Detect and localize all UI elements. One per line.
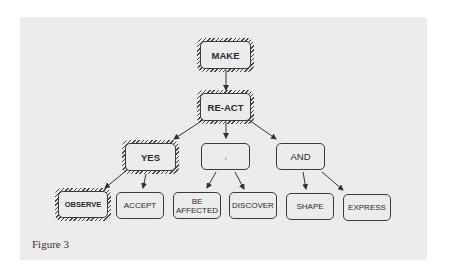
node-label: RE-ACT bbox=[208, 103, 244, 112]
node-label: EXPRESS bbox=[348, 203, 386, 212]
node-and: AND bbox=[276, 143, 325, 170]
node-label: ACCEPT bbox=[124, 201, 156, 210]
edge-comma-discover bbox=[235, 172, 244, 189]
node-label-line1: BE bbox=[192, 197, 203, 206]
node-accept: ACCEPT bbox=[116, 192, 164, 219]
node-label: OBSERVE bbox=[65, 200, 102, 209]
edge-yes-accept bbox=[143, 174, 146, 188]
node-label: DISCOVER bbox=[232, 201, 274, 210]
node-discover: DISCOVER bbox=[229, 192, 277, 219]
node-label: MAKE bbox=[212, 51, 240, 60]
edge-comma-beaffected bbox=[207, 172, 216, 188]
node-yes: YES bbox=[125, 143, 176, 171]
edge-yes-observe bbox=[105, 170, 127, 188]
edge-react-and bbox=[249, 120, 276, 139]
node-comma: , bbox=[201, 143, 250, 170]
node-shape: SHAPE bbox=[286, 193, 334, 220]
node-observe: OBSERVE bbox=[58, 191, 108, 218]
node-be-affected: BEAFFECTED bbox=[173, 192, 221, 219]
edge-and-shape bbox=[303, 172, 306, 189]
node-make: MAKE bbox=[200, 41, 251, 69]
node-label: , bbox=[224, 152, 226, 161]
node-label: SHAPE bbox=[296, 202, 323, 211]
node-react: RE-ACT bbox=[200, 93, 251, 121]
edge-and-express bbox=[322, 172, 343, 190]
node-label: YES bbox=[141, 153, 160, 162]
figure-caption: Figure 3 bbox=[32, 238, 69, 250]
edge-react-yes bbox=[174, 120, 203, 139]
node-label: AND bbox=[290, 152, 310, 161]
node-express: EXPRESS bbox=[343, 194, 391, 221]
node-label-line2: AFFECTED bbox=[176, 206, 218, 215]
